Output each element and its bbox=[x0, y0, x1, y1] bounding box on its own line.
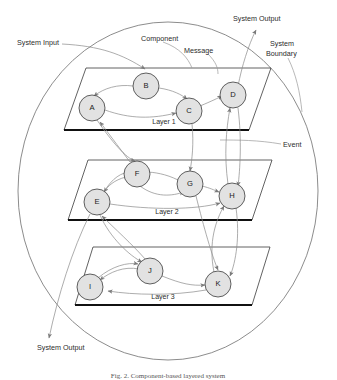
component-node-B[interactable]: B bbox=[133, 73, 159, 99]
label-event: Event bbox=[283, 140, 301, 149]
component-node-J[interactable]: J bbox=[137, 258, 163, 284]
message-e-to-j bbox=[100, 215, 142, 262]
message-j-to-i bbox=[100, 268, 139, 280]
component-node-G[interactable]: G bbox=[177, 171, 203, 197]
system-boundary-ellipse bbox=[18, 22, 318, 360]
message-d-to-system-output bbox=[238, 30, 256, 86]
component-label-F: F bbox=[135, 169, 140, 178]
component-node-E[interactable]: E bbox=[84, 189, 110, 215]
message-c-to-d bbox=[200, 96, 222, 106]
label-system-boundary-line2: Boundary bbox=[266, 49, 297, 58]
label-system-input: System Input bbox=[17, 38, 59, 47]
component-node-C[interactable]: C bbox=[176, 98, 202, 124]
component-label-E: E bbox=[94, 197, 99, 206]
component-label-K: K bbox=[215, 279, 220, 288]
message-a-to-c bbox=[105, 110, 176, 117]
leader-message-label bbox=[208, 54, 218, 74]
components-group: A B C D E F G bbox=[77, 73, 246, 300]
leader-event-label bbox=[220, 140, 281, 144]
message-b-to-c bbox=[159, 88, 187, 99]
annotation-labels: System Input Component Message System Ou… bbox=[17, 14, 301, 352]
layer-label-layer1: Layer 1 bbox=[152, 118, 175, 126]
leader-system-boundary-label bbox=[288, 58, 302, 112]
component-label-D: D bbox=[230, 90, 236, 99]
message-j-to-k bbox=[162, 276, 205, 285]
message-b-to-a bbox=[94, 85, 133, 96]
component-label-C: C bbox=[186, 106, 192, 115]
message-system-input-to-b bbox=[62, 44, 145, 69]
component-node-A[interactable]: A bbox=[79, 95, 105, 121]
component-label-J: J bbox=[148, 266, 152, 275]
layer-label-layer2: Layer 2 bbox=[155, 208, 178, 216]
label-system-output-bottom: System Output bbox=[37, 343, 85, 352]
layer-plane-layer3: Layer 3 bbox=[75, 247, 270, 305]
layered-system-diagram: Layer 3 Layer 2 Layer 1 bbox=[0, 0, 337, 380]
message-k-to-h bbox=[212, 206, 224, 272]
message-h-to-d bbox=[226, 108, 230, 184]
component-label-G: G bbox=[187, 179, 193, 188]
message-f-to-e bbox=[104, 177, 126, 192]
component-node-K[interactable]: K bbox=[205, 271, 231, 297]
message-j-to-e bbox=[102, 216, 146, 260]
component-node-F[interactable]: F bbox=[124, 161, 150, 187]
component-label-B: B bbox=[143, 81, 148, 90]
figure-page: Layer 3 Layer 2 Layer 1 bbox=[0, 0, 337, 380]
label-system-boundary-line1: System bbox=[270, 39, 294, 48]
label-system-output-top: System Output bbox=[233, 14, 281, 23]
component-label-H: H bbox=[229, 191, 234, 200]
message-i-to-j bbox=[98, 264, 138, 278]
component-label-I: I bbox=[89, 282, 91, 291]
message-g-to-h bbox=[202, 186, 219, 192]
message-f-to-a bbox=[100, 122, 130, 162]
message-d-to-h bbox=[238, 108, 240, 186]
component-node-I[interactable]: I bbox=[77, 274, 103, 300]
figure-caption: Fig. 2. Component-based layered system bbox=[111, 372, 226, 380]
label-message: Message bbox=[184, 46, 213, 55]
component-node-D[interactable]: D bbox=[220, 82, 246, 108]
label-component: Component bbox=[141, 34, 178, 43]
component-node-H[interactable]: H bbox=[219, 183, 245, 209]
message-h-to-k bbox=[230, 208, 238, 276]
